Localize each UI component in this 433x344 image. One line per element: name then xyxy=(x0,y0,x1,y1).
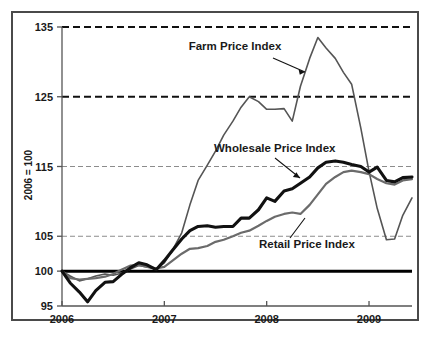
y-tick-label: 135 xyxy=(35,21,53,33)
annotation-farm: Farm Price Index xyxy=(189,40,305,75)
y-tick-label: 115 xyxy=(35,161,53,173)
series-line-retail-price-index xyxy=(62,171,412,280)
series-line-wholesale-price-index xyxy=(62,161,412,302)
gridlines xyxy=(62,27,412,236)
x-axis-tick-labels: 2006200720082009 xyxy=(50,313,382,325)
x-tick-label: 2006 xyxy=(50,313,74,325)
annotation-label-farm: Farm Price Index xyxy=(189,40,282,52)
annotation-retail: Retail Price Index xyxy=(259,218,355,250)
y-tick-label: 95 xyxy=(41,300,53,312)
y-tick-label: 100 xyxy=(35,265,53,277)
x-tick-label: 2007 xyxy=(152,313,176,325)
series-group xyxy=(62,37,412,301)
annotation-wholesale: Wholesale Price Index xyxy=(214,142,336,178)
series-line-farm-price-index xyxy=(62,37,412,280)
annotation-label-retail: Retail Price Index xyxy=(259,238,355,250)
chart-figure: 95100105115125135 2006200720082009 2006 … xyxy=(0,0,433,344)
y-tick-label: 125 xyxy=(35,91,53,103)
line-chart: 95100105115125135 2006200720082009 2006 … xyxy=(0,0,433,344)
annotation-label-wholesale: Wholesale Price Index xyxy=(214,142,336,154)
y-axis-tick-labels: 95100105115125135 xyxy=(35,21,53,312)
y-tick-label: 105 xyxy=(35,230,53,242)
y-axis-title: 2006 = 100 xyxy=(23,149,34,200)
x-tick-label: 2009 xyxy=(357,313,381,325)
x-tick-label: 2008 xyxy=(254,313,278,325)
